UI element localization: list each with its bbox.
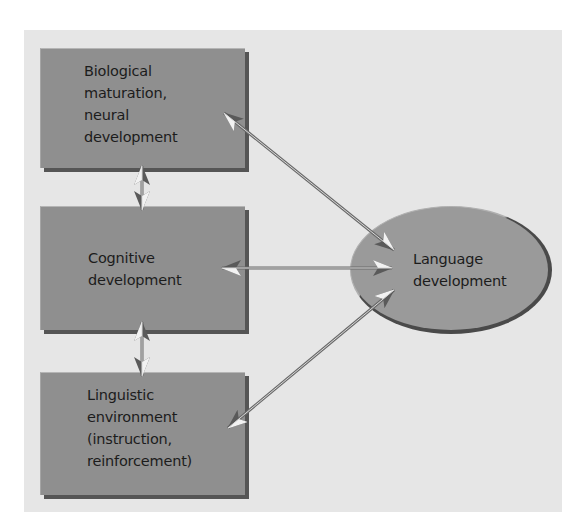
arrow-ling-lang	[228, 290, 394, 428]
arrows-layer	[0, 0, 585, 520]
arrow-bio-lang	[224, 113, 394, 250]
